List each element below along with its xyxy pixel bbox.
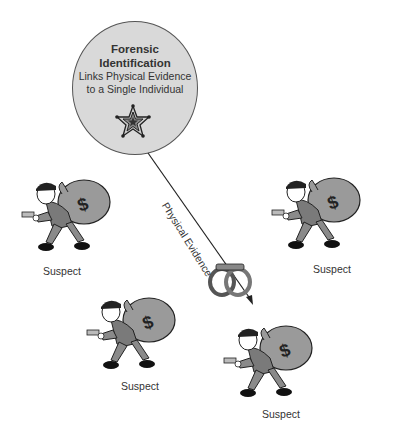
suspect-figure-2 [272, 178, 360, 249]
suspect-label-3: Suspect [100, 380, 180, 392]
suspect-label-4: Suspect [241, 408, 321, 420]
suspect-label-1: Suspect [22, 265, 102, 277]
diagram-graphics: $ [0, 0, 401, 439]
suspect-label-2: Suspect [292, 263, 372, 275]
suspect-figure-3 [87, 298, 175, 369]
suspect-figure-1 [22, 180, 110, 251]
evidence-arrow [148, 153, 251, 300]
suspect-figure-4 [224, 326, 312, 397]
sheriff-star-badge-icon [115, 104, 151, 138]
